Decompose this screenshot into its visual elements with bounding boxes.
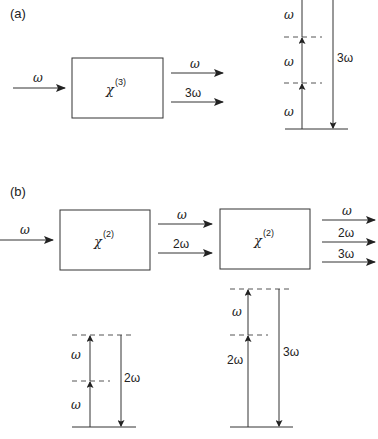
input-label: ω [33, 71, 43, 85]
crystal-symbol: χ [105, 82, 115, 97]
energy-level-diagram-sfg: 2ω ω 3ω [227, 289, 299, 427]
step-label: ω [232, 305, 242, 319]
step-label: ω [71, 398, 81, 412]
panel-a-label: (a) [10, 6, 26, 21]
chi2-crystal-box-1 [60, 210, 150, 270]
middle-label-2: 2ω [173, 237, 189, 251]
step-label: ω [284, 8, 294, 22]
output-label-3: 3ω [338, 247, 354, 261]
crystal-symbol: χ [93, 234, 103, 249]
down-label: 2ω [124, 371, 140, 385]
output-label-2: 2ω [338, 226, 354, 240]
middle-label-1: ω [177, 208, 187, 222]
crystal-symbol: χ [253, 233, 263, 248]
panel-a: (a) ω χ (3) ω 3ω ω ω ω 3ω [10, 0, 353, 129]
step-label: ω [71, 348, 81, 362]
output-label-1: ω [190, 57, 200, 71]
crystal-order: (2) [103, 229, 114, 239]
down-label: 3ω [283, 345, 299, 359]
step-label: 2ω [227, 353, 243, 367]
energy-level-diagram-thg: ω ω ω 3ω [284, 0, 353, 129]
down-label: 3ω [337, 51, 353, 65]
energy-level-diagram-shg: ω ω 2ω [71, 335, 140, 427]
chi3-crystal-box [72, 58, 163, 118]
output-label-1: ω [342, 204, 352, 218]
step-label: ω [284, 105, 294, 119]
crystal-order: (3) [115, 77, 126, 87]
chi2-crystal-box-2 [220, 209, 310, 269]
panel-b-label: (b) [10, 184, 26, 199]
panel-b: (b) ω χ (2) ω 2ω χ (2) ω 2ω 3ω [0, 184, 375, 427]
output-label-2: 3ω [185, 86, 201, 100]
crystal-order: (2) [263, 228, 274, 238]
input-label: ω [20, 223, 30, 237]
harmonic-generation-diagram: (a) ω χ (3) ω 3ω ω ω ω 3ω (b) [0, 0, 378, 439]
step-label: ω [284, 55, 294, 69]
